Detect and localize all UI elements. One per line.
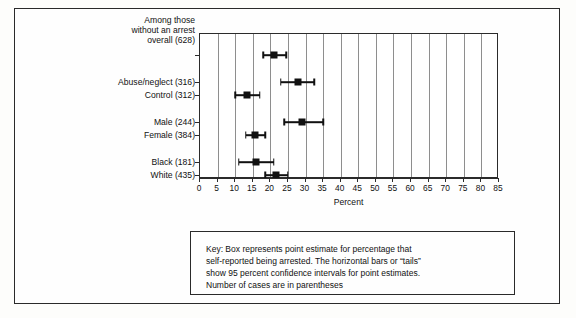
- x-tick-85: [498, 178, 499, 182]
- x-tick-label-15: 15: [247, 183, 256, 193]
- x-tick-label-0: 0: [197, 183, 202, 193]
- gridline-30: [306, 34, 307, 177]
- y-label-overall: Among those without an arrest overall (6…: [131, 15, 195, 45]
- gridline-80: [481, 34, 482, 177]
- gridline-70: [446, 34, 447, 177]
- gridline-75: [464, 34, 465, 177]
- ci-cap-female-low: [245, 132, 247, 139]
- x-tick-label-40: 40: [335, 183, 344, 193]
- ci-cap-overall-low: [263, 52, 265, 59]
- ci-cap-male-high: [322, 119, 324, 126]
- gridline-25: [288, 34, 289, 177]
- gridline-65: [429, 34, 430, 177]
- ci-cap-abuse-neglect-high: [314, 79, 316, 86]
- ci-cap-male-low: [284, 119, 286, 126]
- y-label-female: Female (384): [144, 130, 195, 140]
- x-axis-line: [199, 178, 498, 179]
- y-tick-overall: [195, 55, 200, 56]
- x-tick-label-45: 45: [353, 183, 362, 193]
- key-line-1: Key: Box represents point estimate for p…: [206, 243, 504, 255]
- ci-cap-control-high: [259, 92, 261, 99]
- y-label-control: Control (312): [145, 90, 195, 100]
- x-tick-label-70: 70: [441, 183, 450, 193]
- y-label-overall-line3: overall (628): [131, 35, 195, 45]
- x-tick-label-30: 30: [300, 183, 309, 193]
- x-tick-20: [269, 178, 270, 182]
- ci-cap-black-low: [238, 159, 240, 166]
- x-tick-80: [480, 178, 481, 182]
- plot-area: [199, 33, 498, 178]
- x-tick-label-85: 85: [493, 183, 502, 193]
- ci-cap-black-high: [273, 159, 275, 166]
- x-tick-label-80: 80: [476, 183, 485, 193]
- y-label-male: Male (244): [154, 117, 195, 127]
- x-tick-label-50: 50: [370, 183, 379, 193]
- gridline-35: [323, 34, 324, 177]
- figure-outer-frame: Among those without an arrest overall (6…: [14, 8, 560, 304]
- gridline-10: [235, 34, 236, 177]
- ci-cap-overall-high: [285, 52, 287, 59]
- y-tick-control: [195, 95, 200, 96]
- x-tick-40: [340, 178, 341, 182]
- gridline-15: [253, 34, 254, 177]
- key-legend-box: Key: Box represents point estimate for p…: [190, 231, 515, 295]
- gridline-5: [218, 34, 219, 177]
- x-tick-30: [305, 178, 306, 182]
- key-line-4: Number of cases are in parentheses: [206, 279, 504, 291]
- x-tick-65: [428, 178, 429, 182]
- y-tick-female: [195, 135, 200, 136]
- point-estimate-abuse-neglect: [295, 79, 302, 86]
- key-line-2: self-reported being arrested. The horizo…: [206, 255, 504, 267]
- x-axis-title: Percent: [199, 197, 498, 207]
- ci-cap-control-low: [234, 92, 236, 99]
- y-label-overall-line2: without an arrest: [131, 25, 195, 35]
- y-tick-male: [195, 122, 200, 123]
- x-tick-label-55: 55: [388, 183, 397, 193]
- x-tick-35: [322, 178, 323, 182]
- point-estimate-black: [253, 159, 260, 166]
- x-tick-label-20: 20: [265, 183, 274, 193]
- point-estimate-male: [299, 119, 306, 126]
- gridline-55: [393, 34, 394, 177]
- x-tick-25: [287, 178, 288, 182]
- x-tick-45: [357, 178, 358, 182]
- point-estimate-control: [244, 92, 251, 99]
- gridline-50: [376, 34, 377, 177]
- x-tick-70: [445, 178, 446, 182]
- x-tick-50: [375, 178, 376, 182]
- gridline-60: [411, 34, 412, 177]
- x-tick-10: [234, 178, 235, 182]
- x-tick-15: [252, 178, 253, 182]
- point-estimate-overall: [270, 52, 277, 59]
- y-label-black: Black (181): [152, 157, 195, 167]
- x-tick-label-10: 10: [230, 183, 239, 193]
- forest-plot-chart: Among those without an arrest overall (6…: [15, 9, 561, 209]
- x-tick-label-75: 75: [458, 183, 467, 193]
- x-tick-label-60: 60: [405, 183, 414, 193]
- x-tick-label-35: 35: [317, 183, 326, 193]
- y-tick-white: [195, 175, 200, 176]
- key-line-3: show 95 percent confidence intervals for…: [206, 267, 504, 279]
- ci-cap-abuse-neglect-low: [280, 79, 282, 86]
- x-tick-label-65: 65: [423, 183, 432, 193]
- key-legend-text: Key: Box represents point estimate for p…: [206, 243, 504, 291]
- x-axis-tick-labels: 0510152025303540455055606570758085: [199, 183, 498, 195]
- ci-cap-female-high: [264, 132, 266, 139]
- x-tick-label-5: 5: [214, 183, 219, 193]
- y-tick-abuse-neglect: [195, 82, 200, 83]
- x-tick-55: [392, 178, 393, 182]
- y-label-white: White (435): [151, 170, 195, 180]
- y-tick-black: [195, 162, 200, 163]
- gridline-40: [341, 34, 342, 177]
- gridline-45: [358, 34, 359, 177]
- x-tick-75: [463, 178, 464, 182]
- x-tick-60: [410, 178, 411, 182]
- y-label-abuse-neglect: Abuse/neglect (316): [118, 77, 195, 87]
- x-tick-0: [199, 178, 200, 182]
- y-label-overall-line1: Among those: [131, 15, 195, 25]
- x-tick-label-25: 25: [282, 183, 291, 193]
- point-estimate-female: [251, 132, 258, 139]
- x-tick-5: [217, 178, 218, 182]
